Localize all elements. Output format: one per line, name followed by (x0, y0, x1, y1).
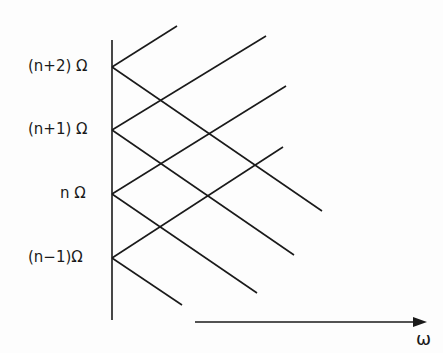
omega-axis-label: ω (416, 328, 431, 349)
diagram: (n+2) Ω (n+1) Ω n Ω (n−1)Ω ω (0, 0, 443, 353)
arrow-head-icon (413, 317, 427, 327)
down-line-n-plus-1 (112, 130, 294, 255)
up-line-n-minus-1 (112, 147, 283, 258)
down-line-n-minus-1 (112, 258, 182, 305)
diagram-lines (0, 0, 443, 353)
level-label-n-plus-1: (n+1) Ω (28, 120, 88, 138)
up-line-n-plus-2 (112, 26, 177, 67)
level-label-n-plus-2: (n+2) Ω (28, 57, 88, 75)
up-line-n (112, 86, 286, 194)
level-label-n: n Ω (60, 184, 86, 202)
level-label-n-minus-1: (n−1)Ω (28, 248, 83, 266)
